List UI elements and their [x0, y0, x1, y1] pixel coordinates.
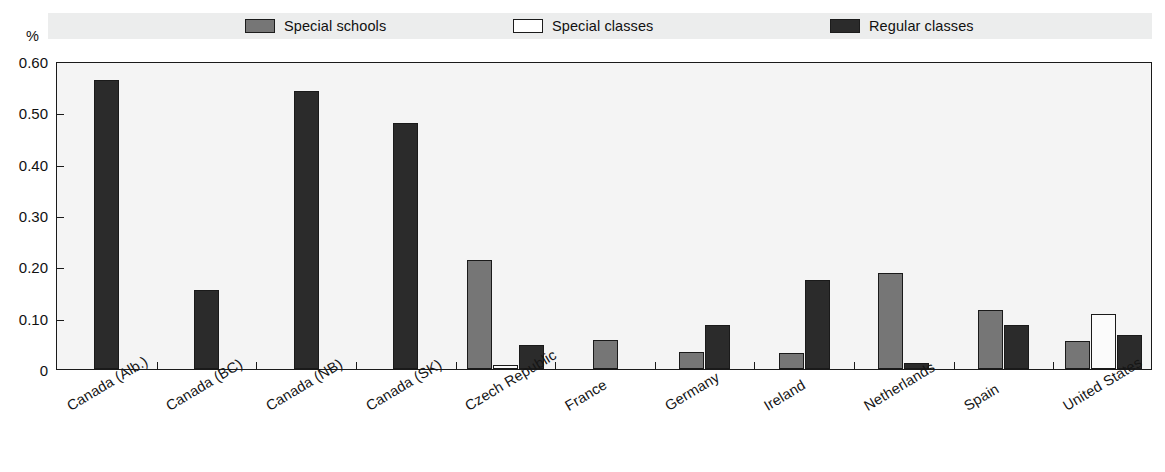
x-axis-tick-mark	[256, 362, 257, 370]
bar	[878, 273, 903, 370]
bars-container	[57, 63, 1151, 369]
x-axis-category-label: Spain	[961, 381, 1002, 414]
legend-swatch-special-classes	[513, 19, 543, 33]
y-axis-tick-mark	[57, 166, 64, 167]
legend-swatch-regular-classes	[830, 19, 860, 33]
chart-legend: Special schools Special classes Regular …	[48, 13, 1152, 39]
bar	[705, 325, 730, 369]
x-axis-tick-mark	[655, 362, 656, 370]
y-axis-tick-label: 0.60	[19, 54, 48, 71]
legend-label-special-classes: Special classes	[552, 18, 653, 34]
x-axis-category-label: Ireland	[761, 377, 808, 414]
y-axis-labels: 0.600.500.400.300.200.100	[0, 62, 48, 370]
legend-entry-special-classes: Special classes	[513, 13, 653, 39]
x-axis-category-label: Germany	[662, 369, 722, 414]
y-axis-tick-label: 0.40	[19, 156, 48, 173]
bar	[805, 280, 830, 369]
legend-swatch-special-schools	[245, 19, 275, 33]
bar	[294, 91, 319, 369]
bar	[1065, 341, 1090, 369]
plot-area	[56, 62, 1152, 370]
bar	[1004, 325, 1029, 369]
x-axis-tick-mark	[356, 362, 357, 370]
legend-label-regular-classes: Regular classes	[869, 18, 974, 34]
x-axis-tick-mark	[456, 362, 457, 370]
bar	[194, 290, 219, 369]
bar	[94, 80, 119, 369]
x-axis-category-label: France	[562, 376, 610, 413]
bar	[779, 353, 804, 369]
x-axis-tick-mark	[854, 362, 855, 370]
bar	[679, 352, 704, 369]
y-axis-tick-mark	[57, 114, 64, 115]
x-axis-tick-mark	[754, 362, 755, 370]
y-axis-unit-label: %	[26, 28, 39, 44]
x-axis-tick-mark	[954, 362, 955, 370]
x-axis-tick-mark	[157, 362, 158, 370]
y-axis-tick-mark	[57, 217, 64, 218]
bar	[467, 260, 492, 369]
x-axis-labels: Canada (Alb.)Canada (BC)Canada (NB)Canad…	[0, 370, 1165, 472]
y-axis-tick-label: 0.20	[19, 259, 48, 276]
legend-label-special-schools: Special schools	[284, 18, 386, 34]
bar	[393, 123, 418, 369]
bar	[1091, 314, 1116, 369]
legend-entry-special-schools: Special schools	[245, 13, 386, 39]
bar	[593, 340, 618, 369]
y-axis-tick-mark	[57, 320, 64, 321]
y-axis-tick-label: 0.10	[19, 310, 48, 327]
y-axis-tick-label: 0.30	[19, 208, 48, 225]
y-axis-tick-mark	[57, 268, 64, 269]
y-axis-tick-label: 0.50	[19, 105, 48, 122]
x-axis-tick-mark	[1053, 362, 1054, 370]
x-axis-tick-mark	[555, 362, 556, 370]
bar	[978, 310, 1003, 369]
legend-entry-regular-classes: Regular classes	[830, 13, 974, 39]
